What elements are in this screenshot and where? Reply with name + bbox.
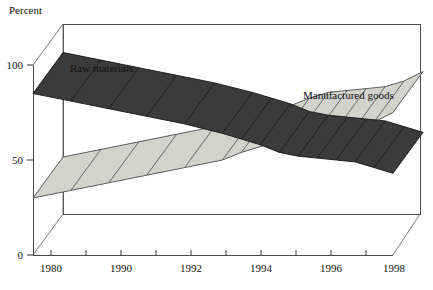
series-label-manufactured-goods: Manufactured goods — [303, 89, 394, 101]
y-tick-label-50: 50 — [12, 154, 24, 166]
x-tick-label-1998: 1998 — [383, 262, 406, 274]
x-tick-label-1980: 1980 — [40, 262, 63, 274]
data-ribbons — [33, 53, 423, 199]
y-tick-label-0: 0 — [18, 249, 24, 261]
x-tick-label-1990: 1990 — [110, 262, 133, 274]
chart-figure: 100 50 0 Percent 1980 1990 1992 1994 199… — [0, 0, 433, 290]
depth-edge-bottom-right — [393, 214, 420, 255]
depth-edge-bottom-left — [33, 214, 63, 255]
series-label-raw-materials: Raw materials — [70, 62, 133, 74]
x-tick-label-1992: 1992 — [180, 262, 202, 274]
y-tick-label-100: 100 — [7, 59, 24, 71]
y-axis-title: Percent — [9, 4, 42, 16]
x-tick-label-1994: 1994 — [250, 262, 273, 274]
chart-canvas: 100 50 0 Percent 1980 1990 1992 1994 199… — [0, 0, 433, 290]
x-tick-label-1996: 1996 — [320, 262, 343, 274]
y-axis-ticks — [27, 65, 33, 255]
x-axis-ticks — [51, 250, 366, 255]
